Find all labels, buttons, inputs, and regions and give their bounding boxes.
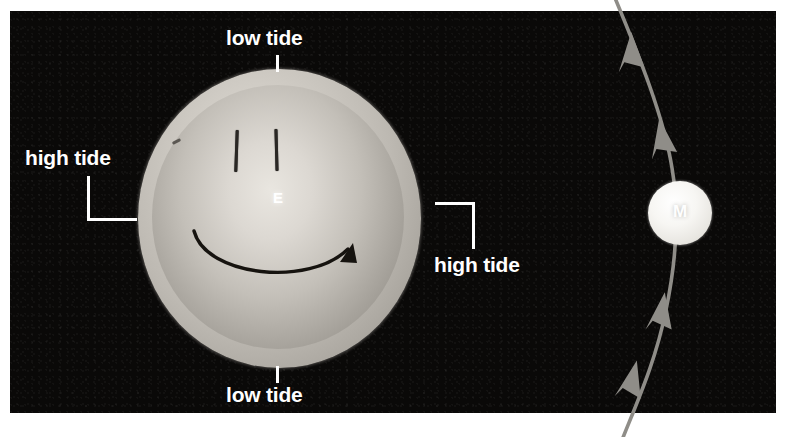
low-tide-bottom-tick <box>276 366 279 383</box>
label-low-tide-top: low tide <box>226 26 303 50</box>
high-tide-right-bracket-horizontal <box>435 202 475 205</box>
high-tide-left-bracket-vertical <box>87 176 90 221</box>
high-tide-left-bracket-horizontal <box>87 218 137 221</box>
label-high-tide-left: high tide <box>25 146 111 170</box>
high-tide-right-bracket-vertical <box>472 202 475 249</box>
low-tide-top-tick <box>276 55 279 72</box>
moon-symbol-label: M <box>648 202 712 222</box>
label-low-tide-bottom: low tide <box>226 383 303 407</box>
earth-symbol-label: E <box>264 189 292 206</box>
diagram-canvas: E low tide low tide high tide high tide <box>0 0 789 437</box>
solid-earth-sphere <box>152 85 404 349</box>
label-high-tide-right: high tide <box>434 253 520 277</box>
earth-rotation-arrow-icon <box>190 225 370 293</box>
